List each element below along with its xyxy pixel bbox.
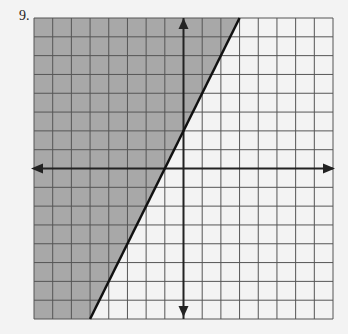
coordinate-graph <box>0 0 348 334</box>
